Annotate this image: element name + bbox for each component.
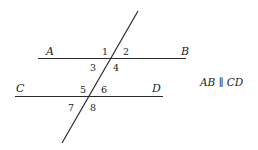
angle-label-6: 6 xyxy=(101,84,107,95)
point-label-c: C xyxy=(16,82,25,95)
angle-label-2: 2 xyxy=(123,46,129,57)
angle-label-8: 8 xyxy=(90,102,96,113)
point-label-d: D xyxy=(151,82,161,95)
angle-label-3: 3 xyxy=(90,62,96,73)
angle-label-1: 1 xyxy=(102,46,108,57)
angle-label-5: 5 xyxy=(80,84,86,95)
parallel-note: AB ∥ CD xyxy=(199,76,244,88)
angle-label-7: 7 xyxy=(68,102,74,113)
parallel-lines-diagram: A B C D 1 2 3 4 5 6 7 8 AB ∥ CD xyxy=(0,0,258,150)
angle-label-4: 4 xyxy=(113,62,119,73)
point-label-b: B xyxy=(180,45,189,58)
transversal-line xyxy=(62,11,138,143)
point-label-a: A xyxy=(45,45,54,58)
